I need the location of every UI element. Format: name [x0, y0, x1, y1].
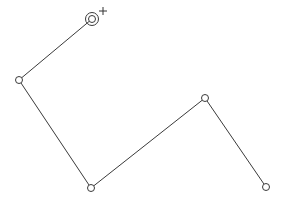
drawing-canvas[interactable]	[0, 0, 283, 204]
crosshair-cursor-icon	[99, 7, 107, 15]
vertex-handle[interactable]	[16, 77, 23, 84]
vertex-handle[interactable]	[88, 185, 95, 192]
polyline-path[interactable]	[19, 19, 266, 188]
vertex-handle[interactable]	[202, 95, 209, 102]
vertex-handle-selected[interactable]	[86, 13, 99, 26]
vertex-handle[interactable]	[263, 184, 270, 191]
